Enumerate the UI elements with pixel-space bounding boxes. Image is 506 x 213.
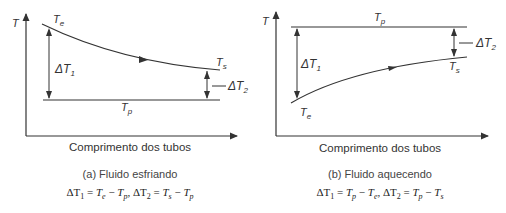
dt1-sub: 1 — [316, 64, 320, 73]
tp-text: T — [121, 101, 128, 113]
ts-text: T — [449, 60, 456, 72]
te-text: T — [300, 106, 307, 118]
ts-sub: s — [456, 66, 460, 75]
tp-text: T — [374, 11, 381, 23]
ts-text: T — [216, 56, 223, 68]
x-axis-label-a: Comprimento dos tubos — [26, 141, 234, 153]
dt1-sub: 1 — [70, 69, 74, 78]
x-axis-label-b: Comprimento dos tubos — [276, 142, 484, 154]
caption-b: (b) Fluido aquecendo — [276, 168, 484, 180]
dt2-text: ΔT — [228, 79, 243, 93]
ts-label-b: Ts — [449, 60, 460, 75]
tp-label-b: Tp — [374, 11, 385, 26]
te-label-a: Te — [53, 13, 64, 28]
dt2-label-b: ΔT2 — [476, 36, 496, 52]
te-label-b: Te — [300, 106, 311, 121]
te-text: T — [53, 13, 60, 25]
formula-b: ΔT1 = Tp − Te, ΔT2 = Tp − Ts — [276, 186, 484, 201]
dt2-text: ΔT — [476, 36, 491, 50]
te-sub: e — [60, 19, 64, 28]
dt1-text: ΔT — [55, 62, 70, 76]
ts-sub: s — [223, 62, 227, 71]
te-sub: e — [307, 112, 311, 121]
diagram-canvas — [0, 0, 506, 213]
tp-sub: p — [381, 17, 385, 26]
ts-label-a: Ts — [216, 56, 227, 71]
caption-a: (a) Fluido esfriando — [26, 168, 234, 180]
flow-direction-arrow — [139, 56, 148, 63]
dt1-label-b: ΔT1 — [301, 57, 321, 73]
tp-sub: p — [128, 107, 132, 116]
tp-label-a: Tp — [121, 101, 132, 116]
dt2-label-a: ΔT2 — [228, 79, 248, 95]
y-axis-label-b: T — [262, 15, 269, 27]
y-axis-label-a: T — [12, 17, 19, 29]
dt1-text: ΔT — [301, 57, 316, 71]
dt1-label-a: ΔT1 — [55, 62, 75, 78]
dt2-sub: 2 — [243, 86, 247, 95]
dt2-sub: 2 — [491, 43, 495, 52]
formula-a: ΔT1 = Te − Tp, ΔT2 = Ts − Tp — [26, 186, 234, 201]
